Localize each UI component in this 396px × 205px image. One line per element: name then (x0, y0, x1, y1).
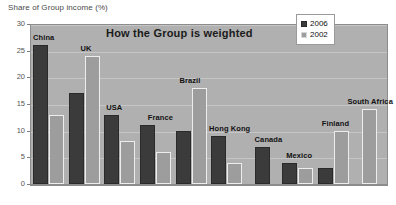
y-axis-tick-label: 5 (21, 152, 25, 161)
chart-container: Share of Group income (%) 051015202530 C… (0, 0, 396, 205)
bar-2002[interactable] (120, 141, 135, 184)
plot-inner: ChinaUKUSAFranceBrazilHong KongCanadaMex… (31, 25, 387, 185)
y-axis-tick: 5 (0, 157, 30, 158)
y-axis-tick-label: 30 (17, 19, 25, 28)
bar-group-label: UK (81, 44, 92, 53)
bar-2002[interactable] (49, 115, 64, 184)
bar-2006[interactable] (211, 136, 226, 184)
bar-2006[interactable] (282, 163, 297, 184)
legend-swatch-2006-icon (301, 21, 307, 27)
bar-group (173, 25, 209, 184)
bar-2002[interactable] (362, 109, 377, 184)
bar-2006[interactable] (176, 131, 191, 184)
legend-item-2002: 2002 (301, 30, 328, 40)
bar-2002[interactable] (192, 88, 207, 184)
y-axis: 051015202530 (0, 24, 30, 186)
bar-2006[interactable] (255, 147, 270, 184)
y-axis-tick: 30 (0, 24, 30, 25)
bar-group-label: China (33, 33, 54, 42)
bar-group-label: Canada (255, 135, 283, 144)
bar-group (280, 25, 316, 184)
y-axis-tick: 0 (0, 184, 30, 185)
bar-2002[interactable] (334, 131, 349, 184)
legend: 2006 2002 (296, 14, 335, 45)
bar-2002[interactable] (298, 168, 313, 184)
y-axis-tick-label: 15 (17, 99, 25, 108)
bar-2006[interactable] (140, 125, 155, 184)
axis-baseline (31, 184, 387, 185)
y-axis-tick-label: 20 (17, 72, 25, 81)
y-axis-tick-label: 10 (17, 126, 25, 135)
legend-label-2006: 2006 (310, 19, 328, 29)
bar-group-label: Mexico (286, 151, 312, 160)
y-axis-tick-label: 25 (17, 46, 25, 55)
y-axis-caption: Share of Group income (%) (8, 3, 108, 12)
bars-layer: ChinaUKUSAFranceBrazilHong KongCanadaMex… (31, 25, 387, 184)
bar-group-label: USA (106, 103, 122, 112)
legend-swatch-2002-icon (301, 32, 307, 38)
bar-2002[interactable] (227, 163, 242, 184)
bar-2006[interactable] (33, 45, 48, 184)
plot-area: ChinaUKUSAFranceBrazilHong KongCanadaMex… (30, 24, 388, 186)
bar-2006[interactable] (318, 168, 333, 184)
bar-group (316, 25, 352, 184)
chart-title: How the Group is weighted (106, 27, 253, 39)
bar-group-label: Finland (322, 119, 349, 128)
bar-2006[interactable] (69, 93, 84, 184)
bar-group-label: South Africa (347, 97, 393, 106)
bar-2006[interactable] (104, 115, 119, 184)
bar-group (209, 25, 245, 184)
legend-item-2006: 2006 (301, 19, 328, 29)
bar-2002[interactable] (156, 152, 171, 184)
bar-group-label: Brazil (179, 76, 200, 85)
y-axis-tick: 10 (0, 131, 30, 132)
legend-label-2002: 2002 (310, 30, 328, 40)
y-axis-tick: 25 (0, 51, 30, 52)
bar-group (245, 25, 281, 184)
bar-2002[interactable] (85, 56, 100, 184)
y-axis-tick: 20 (0, 77, 30, 78)
y-axis-tick-label: 0 (21, 179, 25, 188)
y-axis-tick: 15 (0, 104, 30, 105)
bar-group-label: France (148, 113, 173, 122)
bar-group (138, 25, 174, 184)
bar-group (31, 25, 67, 184)
